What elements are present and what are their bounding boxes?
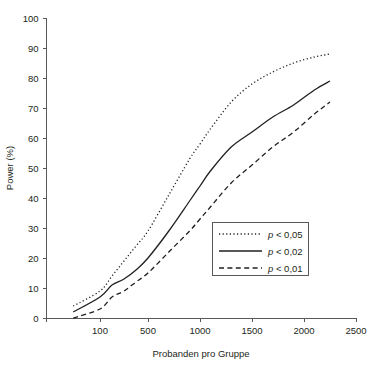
series-line-solid [73, 81, 330, 312]
y-tick-label: 50 [28, 163, 39, 174]
y-tick-label: 40 [28, 193, 39, 204]
legend-label: p < 0,02 [267, 246, 303, 257]
chart-legend: p < 0,05p < 0,02p < 0,01 [213, 223, 309, 276]
y-axis-ticks: 0102030405060708090100 [23, 13, 47, 324]
y-axis-title: Power (%) [4, 146, 15, 190]
chart-canvas: 0102030405060708090100 10050010001500200… [0, 0, 374, 367]
x-tick-label: 2000 [293, 325, 314, 336]
legend-label: p < 0,01 [267, 263, 303, 274]
legend-label: p < 0,05 [267, 229, 303, 240]
y-tick-label: 90 [28, 43, 39, 54]
x-tick-label: 2500 [345, 325, 366, 336]
power-curve-figure: 0102030405060708090100 10050010001500200… [0, 0, 374, 367]
y-tick-label: 80 [28, 73, 39, 84]
axes-group [47, 18, 357, 319]
y-tick-label: 20 [28, 253, 39, 264]
x-tick-label: 100 [92, 325, 108, 336]
x-axis-ticks: 1005001000150020002500 [47, 318, 367, 336]
y-tick-label: 0 [33, 313, 38, 324]
y-tick-label: 60 [28, 133, 39, 144]
x-tick-label: 1500 [241, 325, 262, 336]
y-tick-label: 70 [28, 103, 39, 114]
data-series-group [73, 54, 330, 318]
x-tick-label: 500 [140, 325, 156, 336]
y-tick-label: 30 [28, 223, 39, 234]
x-axis-title: Probanden pro Gruppe [152, 348, 249, 359]
x-tick-label: 1000 [189, 325, 210, 336]
y-tick-label: 100 [23, 13, 39, 24]
y-tick-label: 10 [28, 283, 39, 294]
